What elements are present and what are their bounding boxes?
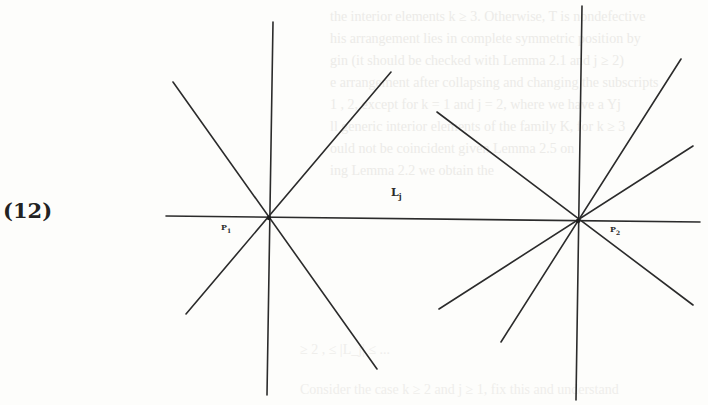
p2-diagonal-descending-line — [437, 112, 693, 305]
p2-point-dot — [576, 219, 580, 223]
point-label-subscript: 2 — [616, 229, 620, 236]
line-label-subscript: j — [399, 191, 402, 201]
p2-vertical-line — [576, 6, 582, 400]
p2-shallow-ascending-line — [439, 146, 693, 309]
line-label-base: L — [391, 186, 399, 199]
p2-steep-ascending-line — [501, 59, 681, 342]
point-label-p1: P1 — [221, 222, 231, 234]
p1-vertical-line — [267, 22, 273, 395]
point-label-p2: P2 — [610, 224, 620, 236]
line-arrangement-figure — [0, 0, 708, 405]
point-label-subscript: 1 — [227, 227, 231, 234]
p1-diagonal-ascending-line — [186, 72, 391, 314]
pencil-p1 — [173, 22, 391, 395]
line-lj-horizontal — [166, 216, 700, 222]
p1-point-dot — [267, 216, 271, 220]
pencil-p2 — [437, 6, 693, 400]
line-label-lj: Lj — [391, 186, 402, 201]
